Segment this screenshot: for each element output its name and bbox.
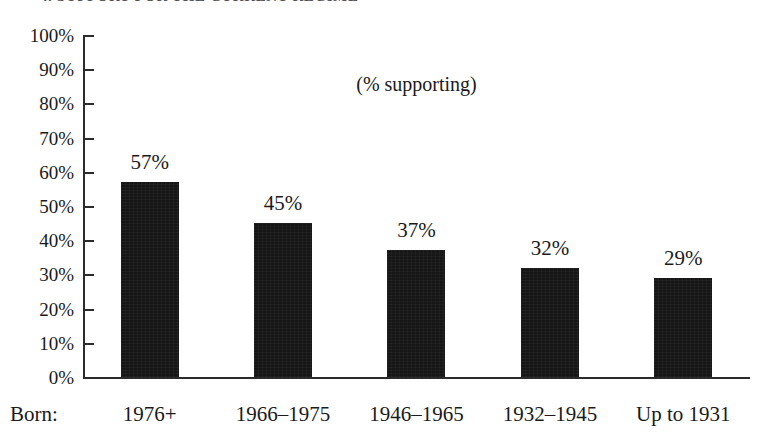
y-axis-tick-mark bbox=[85, 377, 94, 379]
bar[interactable] bbox=[521, 268, 579, 377]
y-axis-tick-label: 70% bbox=[39, 128, 74, 147]
bar-value-label: 45% bbox=[264, 193, 303, 214]
bar-slot: 37% bbox=[350, 35, 483, 377]
x-axis-labels: 1976+1966–19751946–19651932–1945Up to 19… bbox=[83, 404, 750, 434]
y-axis-tick-label: 80% bbox=[39, 94, 74, 113]
x-axis-category-label: 1966–1975 bbox=[236, 404, 331, 425]
chart-page: 4. SUPPORT FOR THE CURRENT REGIME 0%10%2… bbox=[0, 0, 774, 444]
y-axis-tick-label: 0% bbox=[49, 368, 74, 387]
y-axis-tick-label: 20% bbox=[39, 299, 74, 318]
x-axis-category-label: 1976+ bbox=[123, 404, 177, 425]
x-axis-row-label: Born: bbox=[10, 404, 58, 425]
y-axis-tick-label: 50% bbox=[39, 197, 74, 216]
bar-slot: 45% bbox=[216, 35, 349, 377]
bar-value-label: 57% bbox=[130, 152, 169, 173]
y-axis-tick-label: 30% bbox=[39, 265, 74, 284]
bar-value-label: 29% bbox=[664, 248, 703, 269]
y-axis-tick-label: 60% bbox=[39, 162, 74, 181]
bar[interactable] bbox=[254, 223, 312, 377]
bar[interactable] bbox=[387, 250, 445, 377]
y-axis-tick-label: 100% bbox=[30, 26, 74, 45]
y-axis-tick-label: 10% bbox=[39, 333, 74, 352]
plot-area: 0%10%20%30%40%50%60%70%80%90%100% (% sup… bbox=[83, 35, 750, 377]
bar[interactable] bbox=[121, 182, 179, 377]
bar-slot: 29% bbox=[617, 35, 750, 377]
bar-slot: 32% bbox=[483, 35, 616, 377]
x-axis-category-label: 1946–1965 bbox=[369, 404, 464, 425]
bar-value-label: 32% bbox=[531, 238, 570, 259]
y-axis-tick-label: 40% bbox=[39, 231, 74, 250]
bar[interactable] bbox=[654, 278, 712, 377]
x-axis-category-label: Up to 1931 bbox=[636, 404, 731, 425]
bar-slot: 57% bbox=[83, 35, 216, 377]
x-axis-category-label: 1932–1945 bbox=[503, 404, 598, 425]
x-axis-line bbox=[83, 377, 750, 379]
chart-title: 4. SUPPORT FOR THE CURRENT REGIME bbox=[40, 0, 358, 5]
y-axis-tick-label: 90% bbox=[39, 60, 74, 79]
bar-value-label: 37% bbox=[397, 220, 436, 241]
